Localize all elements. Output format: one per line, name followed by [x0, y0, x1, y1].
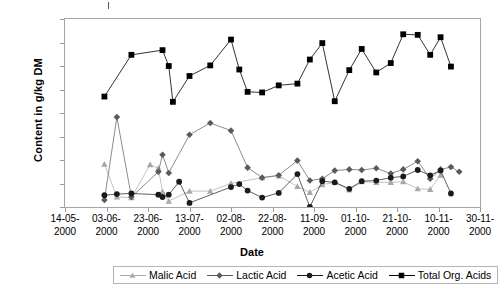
data-point — [114, 191, 120, 197]
x-tick-label: 30-11-2000 — [453, 213, 504, 238]
data-point — [187, 200, 193, 206]
data-point — [331, 167, 338, 174]
data-point — [160, 47, 166, 53]
chart-legend: Malic AcidLactic AcidAcetic AcidTotal Or… — [113, 266, 498, 284]
data-point — [400, 174, 406, 180]
data-point — [388, 175, 394, 181]
data-point — [373, 70, 379, 76]
data-point — [295, 81, 301, 87]
data-point — [346, 67, 352, 73]
data-point — [245, 188, 251, 194]
data-point — [236, 181, 242, 187]
x-tick-mark — [190, 208, 191, 212]
data-point — [319, 40, 325, 46]
x-axis-title: Date — [0, 246, 504, 258]
data-point — [332, 98, 338, 104]
data-point — [159, 151, 166, 158]
data-point — [102, 192, 108, 198]
data-point — [427, 172, 433, 178]
y-axis-title: Content in g/kg DM — [32, 20, 44, 200]
data-point — [448, 164, 455, 171]
data-point — [186, 131, 193, 138]
data-point — [415, 32, 421, 38]
data-point — [176, 179, 182, 185]
legend-marker-diamond-icon — [207, 270, 233, 281]
top-tick-mark — [108, 2, 109, 9]
data-point — [207, 63, 213, 69]
data-point — [307, 204, 313, 207]
data-point — [259, 90, 265, 96]
data-point — [295, 171, 301, 177]
series-malic-acid — [101, 161, 444, 204]
legend-label: Total Org. Acids — [418, 269, 492, 281]
data-point — [207, 120, 214, 127]
data-point — [400, 166, 407, 173]
data-point — [373, 165, 380, 172]
data-point — [346, 166, 353, 173]
x-tick-mark — [148, 208, 149, 212]
legend-item: Total Org. Acids — [389, 269, 492, 281]
chart-figure: Content in g/kg DM Date 0,020,040,060,08… — [0, 0, 504, 297]
data-point — [166, 198, 172, 204]
x-tick-mark — [231, 208, 232, 212]
data-point — [438, 34, 444, 40]
data-point — [448, 191, 454, 197]
x-tick-mark — [65, 208, 66, 212]
legend-marker-triangle-icon — [120, 270, 146, 281]
data-point — [276, 190, 282, 196]
legend-label: Acetic Acid — [326, 269, 377, 281]
data-point — [359, 46, 365, 52]
data-point — [166, 63, 172, 69]
series-canvas — [65, 19, 480, 207]
legend-item: Malic Acid — [120, 269, 196, 281]
data-point — [346, 186, 352, 192]
data-point — [307, 57, 313, 63]
data-point — [187, 73, 193, 79]
x-tick-mark — [107, 208, 108, 212]
data-point — [400, 31, 406, 37]
data-point — [147, 161, 153, 167]
x-tick-mark — [356, 208, 357, 212]
data-point — [456, 168, 463, 175]
data-point — [388, 60, 394, 66]
legend-marker-circle-icon — [297, 270, 323, 281]
data-point — [373, 178, 379, 184]
data-point — [332, 179, 338, 185]
data-point — [228, 127, 235, 134]
x-tick-mark — [273, 208, 274, 212]
data-point — [245, 89, 251, 95]
data-point — [415, 167, 421, 173]
data-point — [414, 158, 421, 165]
data-point — [259, 195, 265, 201]
data-point — [448, 64, 454, 70]
data-point — [114, 114, 121, 121]
data-point — [307, 177, 314, 184]
x-tick-mark — [397, 208, 398, 212]
data-point — [244, 164, 251, 171]
data-point — [102, 94, 108, 100]
x-tick-mark — [480, 208, 481, 212]
data-point — [170, 99, 176, 105]
plot-area — [64, 18, 481, 208]
data-point — [319, 178, 325, 184]
data-point — [236, 67, 242, 73]
data-point — [228, 37, 234, 43]
data-point — [358, 167, 365, 174]
data-point — [307, 189, 313, 195]
data-point — [294, 183, 300, 189]
legend-item: Lactic Acid — [207, 269, 286, 281]
data-point — [415, 186, 421, 192]
data-point — [359, 178, 365, 184]
data-point — [294, 157, 301, 164]
data-point — [129, 191, 135, 197]
data-point — [400, 179, 406, 185]
data-point — [129, 52, 135, 58]
data-point — [160, 194, 166, 200]
legend-label: Malic Acid — [149, 269, 196, 281]
data-point — [101, 161, 107, 167]
legend-marker-square-icon — [389, 270, 415, 281]
legend-label: Lactic Acid — [236, 269, 286, 281]
data-point — [166, 192, 172, 198]
data-point — [276, 82, 282, 88]
legend-item: Acetic Acid — [297, 269, 377, 281]
